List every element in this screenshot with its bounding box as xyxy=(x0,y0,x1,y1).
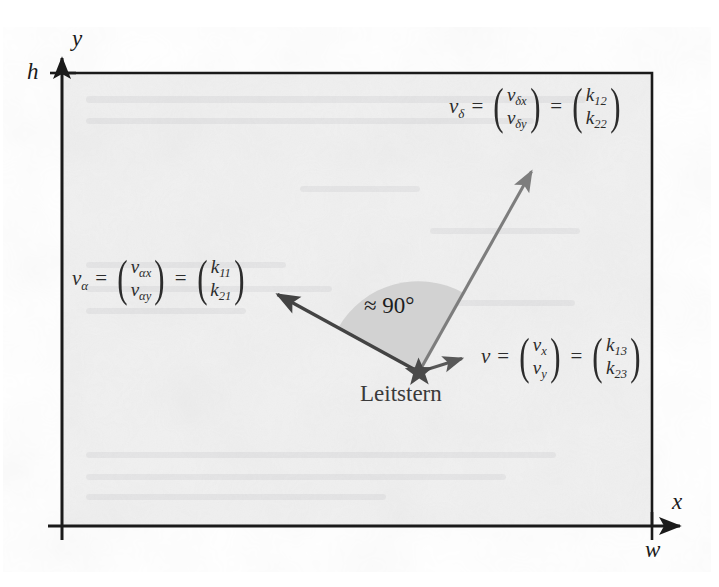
right-paren-icon: ) xyxy=(154,263,164,294)
width-label: w xyxy=(645,537,660,563)
left-paren-icon: ( xyxy=(197,263,207,294)
vector-diagram-figure: y x h w ≈ 90° Leitstern vα = ( vαx vαy )… xyxy=(0,0,719,587)
left-paren-icon: ( xyxy=(117,263,127,294)
vector-alpha-label: vα = ( vαx vαy ) = ( k11 k21 ) xyxy=(72,255,248,301)
vector-delta-components: ( vδx vδy ) xyxy=(490,83,543,129)
vector-v-values: ( k13 k23 ) xyxy=(589,333,643,379)
vector-delta-label: vδ = ( vδx vδy ) = ( k12 k22 ) xyxy=(449,83,623,129)
height-label: h xyxy=(27,59,39,85)
vector-delta-equals2: = xyxy=(550,96,562,117)
vector-v-label: v = ( vx vy ) = ( k13 k23 ) xyxy=(481,333,644,379)
vector-v-equals2: = xyxy=(570,346,582,367)
vector-alpha-values: ( k11 k21 ) xyxy=(194,255,248,301)
left-paren-icon: ( xyxy=(493,91,503,122)
x-axis-label: x xyxy=(672,489,682,515)
vector-alpha-equals: = xyxy=(95,268,107,289)
vector-alpha-equals2: = xyxy=(175,268,187,289)
vector-delta-name: vδ xyxy=(449,96,464,117)
vector-v-equals: = xyxy=(497,346,509,367)
right-paren-icon: ) xyxy=(530,91,540,122)
vector-v-name: v xyxy=(481,346,490,367)
left-paren-icon: ( xyxy=(572,91,582,122)
leitstern-label: Leitstern xyxy=(360,381,442,407)
left-paren-icon: ( xyxy=(519,341,529,372)
y-axis-label: y xyxy=(72,26,82,52)
vector-alpha-components: ( vαx vαy ) xyxy=(114,255,168,301)
vector-delta-values: ( k12 k22 ) xyxy=(569,83,623,129)
vector-alpha-name: vα xyxy=(72,268,88,289)
right-paren-icon: ) xyxy=(610,91,620,122)
vector-delta-equals: = xyxy=(471,96,483,117)
vector-v-components: ( vx vy ) xyxy=(516,333,563,379)
right-paren-icon: ) xyxy=(234,263,244,294)
right-paren-icon: ) xyxy=(630,341,640,372)
left-paren-icon: ( xyxy=(592,341,602,372)
right-paren-icon: ) xyxy=(550,341,560,372)
angle-label: ≈ 90° xyxy=(364,293,415,319)
